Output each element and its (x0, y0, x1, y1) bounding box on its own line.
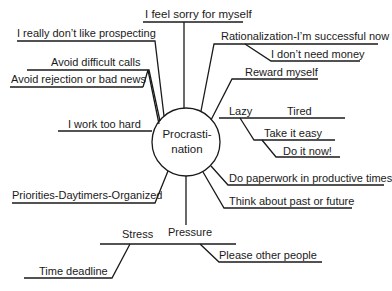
branch-rejection: Avoid rejection or bad news (11, 73, 146, 85)
branch-stress: Stress (122, 228, 153, 240)
branch-past-future: Think about past or future (229, 195, 354, 207)
branch-work-too-hard: I work too hard (68, 118, 141, 130)
branch-priorities: Priorities-Daytimers-Organized (12, 189, 162, 201)
branch-take-it-easy: Take it easy (264, 127, 322, 139)
branch-time-deadline: Time deadline (39, 265, 108, 277)
branch-do-it-now: Do it now! (283, 145, 332, 157)
branch-reward: Reward myself (245, 66, 318, 78)
center-label-line2: nation (150, 142, 224, 157)
center-node-label: Procrasti- nation (150, 127, 224, 157)
branch-prospecting: I really don’t like prospecting (17, 27, 156, 39)
branch-tired: Tired (287, 105, 312, 117)
branch-please-others: Please other people (219, 249, 317, 261)
branch-paperwork: Do paperwork in productive times (229, 172, 392, 184)
branch-rationalization: Rationalization-I’m successful now (221, 30, 389, 42)
branch-pressure: Pressure (168, 226, 212, 238)
branch-feel-sorry: I feel sorry for myself (145, 8, 252, 20)
branch-lazy: Lazy (229, 105, 252, 117)
center-label-line1: Procrasti- (150, 127, 224, 142)
branch-difficult-calls: Avoid difficult calls (51, 56, 140, 68)
branch-dont-need-money: I don’t need money (271, 48, 365, 60)
